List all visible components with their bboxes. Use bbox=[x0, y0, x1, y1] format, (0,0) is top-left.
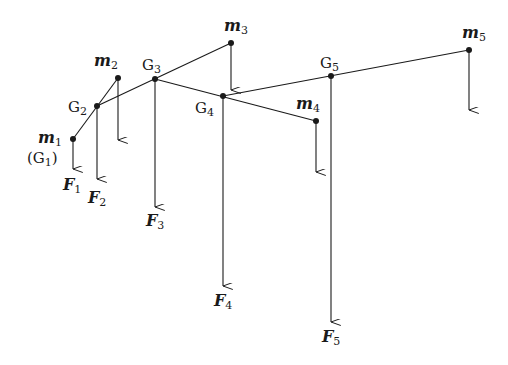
label-f2: F2 bbox=[87, 188, 106, 209]
point-m4 bbox=[313, 118, 319, 124]
point-m5 bbox=[466, 47, 472, 53]
line-g3-m4 bbox=[155, 79, 316, 121]
connection-lines bbox=[73, 43, 469, 139]
center-of-gravity-diagram: m1 (G1) m2 m3 m4 m5 G2 G3 G4 G5 F1 F2 F3… bbox=[0, 0, 508, 365]
label-g5: G5 bbox=[320, 54, 339, 74]
label-f3: F3 bbox=[145, 211, 164, 232]
point-g4 bbox=[220, 93, 226, 99]
point-m1 bbox=[70, 136, 76, 142]
label-m1: m1 bbox=[38, 128, 62, 149]
label-m4: m4 bbox=[296, 94, 320, 115]
point-m2 bbox=[115, 75, 121, 81]
label-f4: F4 bbox=[213, 291, 232, 312]
label-g3: G3 bbox=[142, 56, 161, 76]
force-arrows bbox=[73, 43, 469, 322]
label-g2: G2 bbox=[68, 98, 87, 118]
point-g2 bbox=[94, 103, 100, 109]
points bbox=[70, 40, 472, 142]
point-m3 bbox=[228, 40, 234, 46]
label-f5: F5 bbox=[321, 327, 340, 348]
line-g4-m5 bbox=[223, 50, 469, 96]
label-m2: m2 bbox=[94, 51, 118, 72]
label-f1: F1 bbox=[62, 175, 81, 196]
label-m3: m3 bbox=[224, 16, 248, 37]
line-g2-m3 bbox=[97, 43, 231, 106]
label-g1: (G1) bbox=[27, 149, 58, 169]
point-g3 bbox=[152, 76, 158, 82]
label-m5: m5 bbox=[462, 23, 486, 44]
label-g4: G4 bbox=[195, 99, 214, 119]
